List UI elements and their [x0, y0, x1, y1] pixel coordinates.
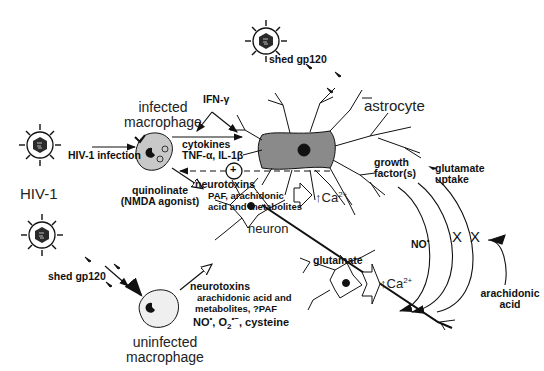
uninfected-macrophage-line1: uninfected	[120, 335, 210, 350]
glutamate-label: glutamate	[313, 255, 363, 266]
neurotoxins-bottom-line1: arachidonic acid and	[197, 293, 292, 303]
neurotoxins-top-line1: PAF, arachidonic	[208, 191, 284, 201]
infected-macrophage-label: infected macrophage	[123, 100, 203, 129]
arachidonic-acid-label: arachidonic acid	[480, 288, 540, 310]
arachidonic-acid-line2: acid	[480, 299, 540, 310]
cytokines-line2: TNF-α, IL-1β	[182, 150, 243, 161]
ifn-gamma-label: IFN-γ	[203, 94, 229, 105]
gp120-fragments-top	[306, 64, 341, 93]
nitric-oxide-label: NO•	[411, 237, 430, 250]
superoxide-charge: •−	[231, 314, 238, 323]
ca-charge: 2+	[338, 190, 347, 199]
growth-factors-label: growth factor(s)	[374, 157, 416, 179]
radical-dot: •	[427, 236, 430, 245]
superoxide-text: , O	[212, 316, 227, 328]
plus-symbol: +	[230, 164, 236, 176]
neurotoxins-bottom-title: neurotoxins	[190, 281, 250, 292]
ifn-arrow-to-astrocyte	[212, 112, 237, 132]
uninfected-macrophage-label: uninfected macrophage	[120, 335, 210, 364]
cytokines-label: cytokines TNF-α, IL-1β	[182, 139, 243, 161]
no-text: NO	[193, 316, 210, 328]
shed-gp120-bottom-label: shed gp120	[48, 271, 106, 282]
glutamate-uptake-line2: uptake	[435, 174, 485, 185]
quinolinate-label: quinolinate (NMDA agonist)	[120, 185, 200, 207]
uninfected-macrophage-cell	[136, 289, 179, 327]
hiv-1-label: HIV-1	[20, 186, 58, 202]
hiv-virion-icon	[21, 214, 63, 256]
superoxide-subscript: 2	[227, 322, 231, 331]
cysteine-text: , cysteine	[239, 316, 289, 328]
block-mark-1: X	[452, 229, 462, 245]
quinolinate-line2: (NMDA agonist)	[120, 196, 200, 207]
calcium-upper-label: ↑Ca2+	[315, 191, 347, 205]
shed-gp120-top-label: shed gp120	[269, 54, 327, 65]
hiv-neuropathogenesis-diagram: HIV-1 HIV-1 infection infected macrophag…	[0, 0, 544, 371]
glutamate-uptake-label: glutamate uptake	[435, 163, 485, 185]
astrocyte-label: astrocyte	[364, 98, 425, 114]
neurotoxins-top-line2: acid and metabolites	[208, 202, 302, 212]
growth-factors-line2: factor(s)	[374, 168, 416, 179]
neuron-label: neuron	[248, 222, 288, 236]
hiv-virion-icon	[19, 124, 61, 166]
calcium-influx-arrow-lower	[362, 264, 380, 304]
infected-macrophage-line1: infected	[123, 100, 203, 115]
calcium-lower-label: ↑Ca2+	[380, 277, 412, 291]
ca-text: Ca	[322, 190, 339, 205]
neurotoxins-bottom-line3: NO•, O2•−, cysteine	[193, 315, 289, 331]
uninfected-macrophage-line2: macrophage	[120, 350, 210, 365]
hiv-infection-label: HIV-1 infection	[68, 150, 141, 161]
neurotoxins-top-title: neurotoxins	[195, 179, 255, 190]
ca-charge: 2+	[403, 276, 412, 285]
infected-macrophage-line2: macrophage	[123, 115, 203, 130]
neurotoxins-bottom-line2: metabolites, ?PAF	[195, 304, 277, 314]
ca-text: Ca	[387, 276, 404, 291]
no-text: NO	[411, 238, 427, 250]
gp120-arrow	[105, 266, 128, 286]
block-mark-2: X	[470, 229, 480, 245]
